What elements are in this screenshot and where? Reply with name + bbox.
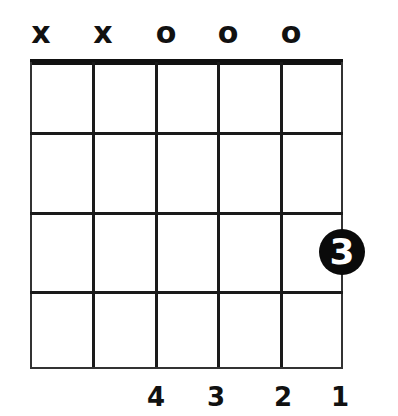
finger-dot-string-6-fret-3: 3 <box>319 229 365 275</box>
string-5-marker-open: o <box>276 18 306 48</box>
string-2-marker-muted: x <box>88 18 118 48</box>
string-1-marker-muted: x <box>26 18 56 48</box>
finger-label-string-5: 2 <box>268 382 298 412</box>
fret-line-1 <box>30 132 343 135</box>
fret-line-3 <box>30 291 343 294</box>
string-line-6 <box>341 62 343 368</box>
finger-label-string-6: 1 <box>325 382 355 412</box>
string-3-marker-open: o <box>151 18 181 48</box>
string-line-4 <box>217 62 220 368</box>
finger-label-string-3: 4 <box>141 382 171 412</box>
string-line-1 <box>30 62 32 368</box>
string-4-marker-open: o <box>213 18 243 48</box>
finger-label-string-4: 3 <box>201 382 231 412</box>
fret-line-4 <box>30 367 343 369</box>
nut <box>30 59 343 65</box>
fret-line-2 <box>30 212 343 215</box>
string-line-2 <box>92 62 95 368</box>
string-line-5 <box>280 62 283 368</box>
string-line-3 <box>155 62 158 368</box>
